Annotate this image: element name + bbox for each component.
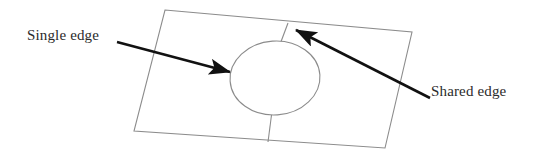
diagram-figure: Single edge Shared edge	[0, 0, 541, 157]
diagram-canvas	[0, 0, 541, 157]
shared-edge-label: Shared edge	[431, 83, 506, 100]
single-edge-label: Single edge	[27, 27, 99, 44]
